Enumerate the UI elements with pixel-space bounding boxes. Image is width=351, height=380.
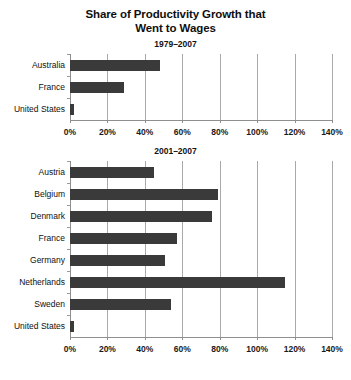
x-tick-label: 20% bbox=[99, 344, 116, 354]
x-tick bbox=[332, 337, 333, 340]
x-tick bbox=[145, 337, 146, 340]
x-tick bbox=[257, 337, 258, 340]
category-label: Denmark bbox=[31, 205, 70, 227]
panel-2-x-tick-labels: 0%20%40%60%80%100%120%140% bbox=[70, 343, 332, 357]
panel-2-rows: AustriaBelgiumDenmarkFranceGermanyNether… bbox=[70, 161, 332, 337]
bar-row: Belgium bbox=[70, 183, 332, 205]
x-tick bbox=[220, 337, 221, 340]
category-label: France bbox=[39, 76, 70, 98]
bar bbox=[70, 82, 124, 93]
panel-2-axis-line bbox=[70, 337, 332, 338]
x-tick-label: 80% bbox=[211, 127, 228, 137]
bar bbox=[70, 60, 160, 71]
chart-title: Share of Productivity Growth that Went t… bbox=[0, 7, 351, 35]
x-tick-label: 20% bbox=[99, 127, 116, 137]
x-tick-label: 140% bbox=[321, 344, 343, 354]
x-tick-label: 0% bbox=[64, 344, 76, 354]
bar bbox=[70, 104, 74, 115]
x-tick-label: 0% bbox=[64, 127, 76, 137]
category-label: United States bbox=[14, 315, 70, 337]
x-tick bbox=[182, 120, 183, 123]
bar-row: Australia bbox=[70, 54, 332, 76]
x-tick-label: 40% bbox=[136, 127, 153, 137]
panel-2-body: AustriaBelgiumDenmarkFranceGermanyNether… bbox=[0, 161, 351, 357]
x-tick bbox=[295, 337, 296, 340]
bar-row: Netherlands bbox=[70, 271, 332, 293]
panel-2-plot-area: AustriaBelgiumDenmarkFranceGermanyNether… bbox=[70, 161, 332, 337]
category-label: United States bbox=[14, 98, 70, 120]
chart-figure: Share of Productivity Growth that Went t… bbox=[0, 0, 351, 380]
x-tick-label: 100% bbox=[246, 127, 268, 137]
chart-title-block: Share of Productivity Growth that Went t… bbox=[0, 0, 351, 35]
bar-row: United States bbox=[70, 98, 332, 120]
bar-row: Denmark bbox=[70, 205, 332, 227]
category-label: Belgium bbox=[34, 183, 70, 205]
bar-row: Austria bbox=[70, 161, 332, 183]
bar-row: United States bbox=[70, 315, 332, 337]
gridline-140% bbox=[332, 54, 333, 120]
x-tick bbox=[145, 120, 146, 123]
bar-row: France bbox=[70, 227, 332, 249]
category-label: Austria bbox=[39, 161, 70, 183]
panel-1-subtitle: 1979–2007 bbox=[0, 39, 351, 49]
panel-1-x-tick-labels: 0%20%40%60%80%100%120%140% bbox=[70, 126, 332, 140]
bar bbox=[70, 277, 285, 288]
x-tick bbox=[182, 337, 183, 340]
bar bbox=[70, 233, 177, 244]
panel-1-plot-area: AustraliaFranceUnited States bbox=[70, 54, 332, 120]
x-tick bbox=[70, 120, 71, 123]
panel-1-axis-line bbox=[70, 120, 332, 121]
x-tick bbox=[332, 120, 333, 123]
category-label: France bbox=[39, 227, 70, 249]
x-tick bbox=[107, 337, 108, 340]
gridline-140% bbox=[332, 161, 333, 337]
panel-1-rows: AustraliaFranceUnited States bbox=[70, 54, 332, 120]
x-tick bbox=[107, 120, 108, 123]
category-label: Germany bbox=[30, 249, 70, 271]
x-tick bbox=[70, 337, 71, 340]
x-tick bbox=[220, 120, 221, 123]
bar-row: France bbox=[70, 76, 332, 98]
x-tick-label: 80% bbox=[211, 344, 228, 354]
bar bbox=[70, 321, 74, 332]
bar bbox=[70, 255, 165, 266]
chart-title-line-2: Went to Wages bbox=[0, 21, 351, 35]
panel-1979-2007: 1979–2007 AustraliaFranceUnited States 0… bbox=[0, 39, 351, 140]
x-tick-label: 60% bbox=[174, 344, 191, 354]
panel-2-subtitle: 2001–2007 bbox=[0, 146, 351, 156]
bar-row: Germany bbox=[70, 249, 332, 271]
panel-1-body: AustraliaFranceUnited States 0%20%40%60%… bbox=[0, 54, 351, 140]
bar bbox=[70, 189, 218, 200]
x-tick-label: 120% bbox=[284, 344, 306, 354]
chart-title-line-1: Share of Productivity Growth that bbox=[85, 8, 265, 20]
category-label: Sweden bbox=[34, 293, 70, 315]
x-tick bbox=[295, 120, 296, 123]
x-tick-label: 120% bbox=[284, 127, 306, 137]
x-tick-label: 100% bbox=[246, 344, 268, 354]
x-tick-label: 40% bbox=[136, 344, 153, 354]
bar bbox=[70, 211, 212, 222]
x-tick-label: 60% bbox=[174, 127, 191, 137]
x-tick bbox=[257, 120, 258, 123]
bar-row: Sweden bbox=[70, 293, 332, 315]
category-label: Australia bbox=[32, 54, 70, 76]
bar bbox=[70, 299, 171, 310]
x-tick-label: 140% bbox=[321, 127, 343, 137]
bar bbox=[70, 167, 154, 178]
panel-2001-2007: 2001–2007 AustriaBelgiumDenmarkFranceGer… bbox=[0, 146, 351, 357]
category-label: Netherlands bbox=[19, 271, 70, 293]
